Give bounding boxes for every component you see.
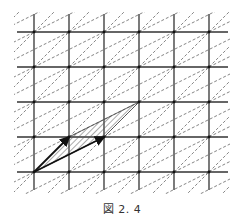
lattice-diagram — [0, 0, 244, 224]
figure-caption: 図 2. 4 — [0, 200, 244, 216]
